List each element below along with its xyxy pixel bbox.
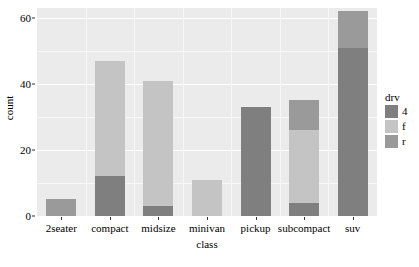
bar-segment-pickup-4 (241, 107, 271, 216)
bar-subcompact (289, 8, 319, 216)
gridline-vertical (134, 8, 135, 216)
legend-label-r: r (402, 135, 406, 148)
gridline-vertical (328, 8, 329, 216)
legend-title: drv (385, 92, 419, 103)
bar-pickup (241, 8, 271, 216)
y-tick-mark (32, 17, 35, 18)
bar-segment-subcompact-r (289, 100, 319, 130)
bar-minivan (192, 8, 222, 216)
x-tick-mark (353, 217, 354, 220)
x-tick-label-suv: suv (345, 222, 360, 234)
x-tick-mark (256, 217, 257, 220)
bar-segment-compact-f (95, 61, 125, 177)
bar-segment-suv-4 (338, 48, 368, 216)
y-tick-label: 20 (20, 144, 31, 156)
y-tick-label: 60 (20, 12, 31, 24)
x-tick-mark (207, 217, 208, 220)
legend: drv 4fr (385, 92, 419, 150)
legend-swatch-4 (385, 105, 398, 118)
legend-item-f: f (385, 120, 419, 133)
x-tick-label-2seater: 2seater (46, 222, 77, 234)
gridline-vertical (280, 8, 281, 216)
bar-segment-minivan-f (192, 180, 222, 216)
x-tick-label-subcompact: subcompact (278, 222, 331, 234)
bar-suv (338, 8, 368, 216)
bar-segment-midsize-f (143, 81, 173, 206)
y-axis-ticks: 0204060 (0, 0, 31, 267)
y-tick-label: 40 (20, 78, 31, 90)
bar-compact (95, 8, 125, 216)
bar-2seater (46, 8, 76, 216)
x-tick-label-midsize: midsize (141, 222, 175, 234)
bar-segment-compact-4 (95, 176, 125, 216)
x-tick-label-pickup: pickup (241, 222, 271, 234)
bar-segment-subcompact-4 (289, 203, 319, 216)
legend-item-r: r (385, 135, 419, 148)
bar-midsize (143, 8, 173, 216)
legend-label-f: f (402, 120, 406, 133)
gridline-vertical (183, 8, 184, 216)
legend-swatch-f (385, 120, 398, 133)
bar-segment-suv-r (338, 11, 368, 47)
x-tick-mark (158, 217, 159, 220)
x-axis-title: class (37, 238, 377, 250)
bar-segment-subcompact-f (289, 130, 319, 203)
gridline-vertical (86, 8, 87, 216)
y-tick-label: 0 (26, 210, 32, 222)
bar-segment-2seater-r (46, 199, 76, 216)
bar-segment-midsize-4 (143, 206, 173, 216)
legend-items: 4fr (385, 105, 419, 148)
y-tick-mark (32, 149, 35, 150)
legend-label-4: 4 (402, 105, 408, 118)
plot-panel (37, 8, 377, 216)
y-tick-mark (32, 216, 35, 217)
x-tick-mark (304, 217, 305, 220)
x-tick-mark (110, 217, 111, 220)
legend-swatch-r (385, 135, 398, 148)
x-tick-label-compact: compact (91, 222, 128, 234)
legend-item-4: 4 (385, 105, 419, 118)
gridline-vertical (231, 8, 232, 216)
x-tick-mark (61, 217, 62, 220)
x-tick-label-minivan: minivan (189, 222, 225, 234)
y-tick-mark (32, 83, 35, 84)
bar-chart: count 0204060 2seatercompactmidsizeminiv… (0, 0, 419, 267)
